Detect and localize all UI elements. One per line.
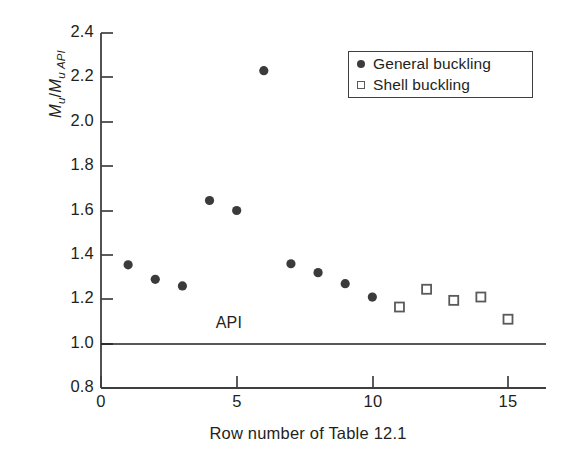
ytick-label: 1.4	[50, 244, 94, 263]
data-point-general-buckling	[313, 268, 322, 277]
y-axis-title-m1: M	[46, 104, 64, 118]
ytick-label: 1.8	[50, 155, 94, 174]
legend: General buckling Shell buckling	[348, 51, 533, 98]
data-point-shell-buckling	[422, 285, 431, 294]
legend-label: General buckling	[373, 55, 491, 73]
xtick-label: 10	[353, 392, 393, 411]
data-point-general-buckling	[178, 281, 187, 290]
data-point-shell-buckling	[449, 296, 458, 305]
y-axis-title-slash: /	[46, 93, 64, 98]
legend-item-shell-buckling: Shell buckling	[357, 74, 470, 96]
x-axis-title: Row number of Table 12.1	[118, 424, 498, 443]
ytick-label: 1.6	[50, 200, 94, 219]
legend-item-general-buckling: General buckling	[357, 53, 491, 75]
legend-label: Shell buckling	[373, 76, 470, 94]
filled-circle-icon	[357, 60, 365, 68]
data-point-shell-buckling	[476, 293, 485, 302]
y-axis-title: Mu/Mu API	[46, 0, 67, 118]
xtick-label: 0	[81, 392, 121, 411]
data-point-general-buckling	[232, 206, 241, 215]
data-point-general-buckling	[368, 292, 377, 301]
data-point-general-buckling	[259, 66, 268, 75]
ytick-label: 1.0	[50, 333, 94, 352]
data-point-general-buckling	[151, 275, 160, 284]
data-point-general-buckling	[286, 259, 295, 268]
y-axis-title-sub1: u	[55, 97, 67, 104]
data-markers	[124, 66, 513, 324]
xtick-label: 5	[217, 392, 257, 411]
data-point-general-buckling	[205, 196, 214, 205]
api-line-label: API	[203, 314, 255, 332]
ytick-label: 1.2	[50, 288, 94, 307]
data-point-shell-buckling	[395, 303, 404, 312]
data-point-general-buckling	[124, 260, 133, 269]
y-axis-title-m2: M	[46, 79, 64, 93]
open-square-icon	[357, 81, 365, 89]
y-axis-title-sub2: u API	[55, 50, 67, 79]
x-axis-ticks	[101, 376, 508, 388]
data-point-shell-buckling	[504, 315, 513, 324]
xtick-label: 15	[488, 392, 528, 411]
y-axis-ticks	[101, 33, 113, 388]
data-point-general-buckling	[341, 279, 350, 288]
